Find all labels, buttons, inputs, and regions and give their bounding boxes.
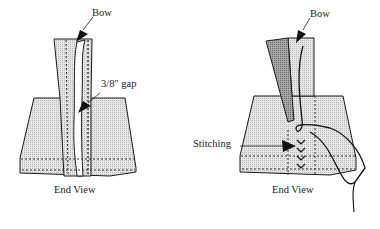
right-end-view-label: End View	[272, 184, 313, 195]
left-bow-label: Bow	[92, 7, 112, 18]
right-bow-label: Bow	[310, 8, 330, 19]
left-end-view-figure	[20, 17, 136, 176]
gap-label: 3/8" gap	[101, 78, 137, 89]
right-end-view-figure	[240, 18, 365, 212]
left-end-view-label: End View	[54, 184, 95, 195]
right-base-panel	[240, 96, 356, 175]
stitching-label: Stitching	[193, 138, 231, 149]
